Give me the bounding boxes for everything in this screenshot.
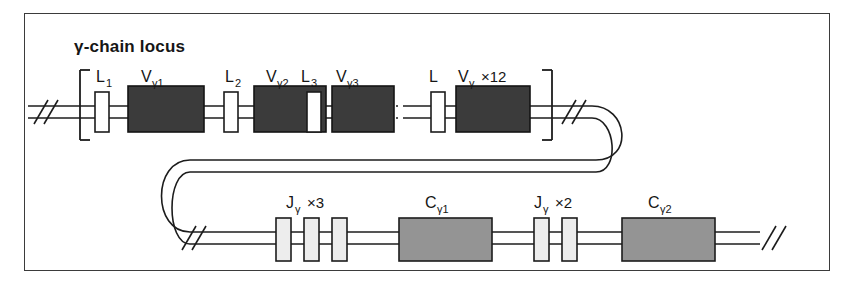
sublabel-V-gamma-1: γ1 (152, 77, 164, 89)
sublabel-V-gamma-n: γ (469, 77, 475, 89)
page-title: γ-chain locus (74, 37, 185, 56)
multiplier-J-gamma-cluster-2: ×2 (555, 194, 572, 211)
label-L-exon-1: L (96, 68, 105, 85)
label-C-gamma-2: C (648, 194, 660, 211)
gene-box-V-gamma-n[interactable] (456, 86, 530, 132)
gene-box-C-gamma-1[interactable] (399, 218, 492, 261)
sublabel-V-gamma-2: γ2 (277, 77, 289, 89)
gene-box-J-gamma-1b[interactable] (304, 218, 319, 261)
label-V-gamma-2: V (266, 68, 277, 85)
gene-box-L-exon-3[interactable] (307, 92, 321, 132)
sublabel-L-exon-3: 3 (311, 77, 317, 89)
label-V-gamma-3: V (336, 68, 347, 85)
label-L-exon-2: L (225, 68, 234, 85)
gene-box-L-exon-n[interactable] (431, 92, 445, 132)
label-L-exon-n: L (429, 68, 438, 85)
gene-box-J-gamma-1c[interactable] (332, 218, 347, 261)
sublabel-J-gamma-cluster-2: γ (543, 203, 549, 215)
gene-box-J-gamma-2b[interactable] (562, 218, 577, 261)
sublabel-C-gamma-2: γ2 (660, 203, 672, 215)
sublabel-V-gamma-3: γ3 (347, 77, 359, 89)
bottom-row-right-break-icon (762, 226, 786, 250)
label-V-gamma-n: V (458, 68, 469, 85)
multiplier-V-gamma-n: ×12 (481, 68, 506, 85)
gene-box-C-gamma-2[interactable] (622, 218, 715, 261)
label-J-gamma-cluster-1: J (286, 194, 294, 211)
sublabel-L-exon-2: 2 (235, 77, 241, 89)
multiplier-J-gamma-cluster-1: ×3 (307, 194, 324, 211)
label-C-gamma-1: C (425, 194, 437, 211)
top-row-right-break-icon (562, 100, 586, 124)
gene-box-J-gamma-1a[interactable] (276, 218, 291, 261)
gene-box-V-gamma-3[interactable] (332, 86, 394, 132)
v-cluster-bracket-open (80, 70, 90, 140)
gene-box-L-exon-1[interactable] (95, 92, 109, 132)
v-cluster-bracket-close (542, 70, 552, 140)
sublabel-J-gamma-cluster-1: γ (295, 203, 301, 215)
label-L-exon-3: L (301, 68, 310, 85)
label-V-gamma-1: V (141, 68, 152, 85)
sublabel-L-exon-1: 1 (106, 77, 112, 89)
gamma-chain-locus-diagram: γ-chain locus L 1 V γ1 L 2 (0, 0, 857, 288)
gene-box-V-gamma-1[interactable] (128, 86, 204, 132)
top-row-left-break-icon (34, 100, 58, 124)
bottom-row-left-break-icon (182, 226, 206, 250)
sublabel-C-gamma-1: γ1 (437, 203, 449, 215)
gene-box-L-exon-2[interactable] (224, 92, 238, 132)
label-J-gamma-cluster-2: J (534, 194, 542, 211)
gene-box-J-gamma-2a[interactable] (534, 218, 549, 261)
